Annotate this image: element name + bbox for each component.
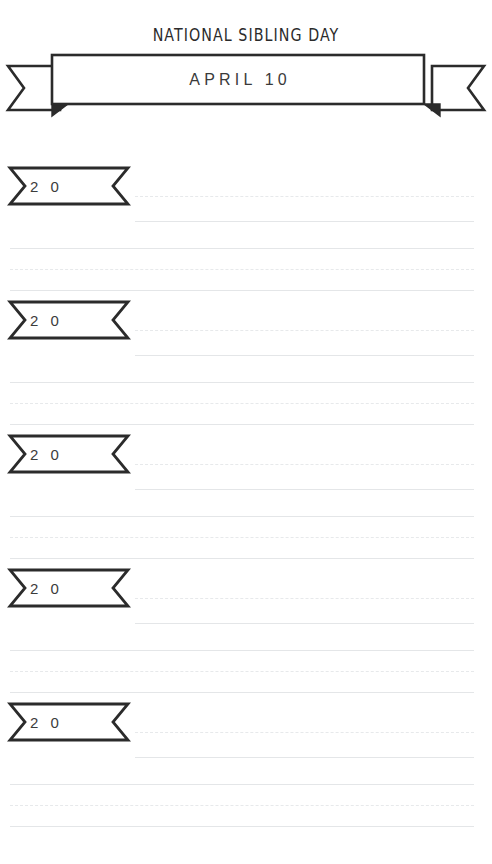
writing-line[interactable] xyxy=(135,196,474,197)
writing-line[interactable] xyxy=(135,464,474,465)
writing-line[interactable] xyxy=(135,330,474,331)
writing-line[interactable] xyxy=(135,489,474,490)
writing-line[interactable] xyxy=(135,598,474,599)
writing-line[interactable] xyxy=(10,248,474,249)
year-input[interactable]: 2 0 xyxy=(8,433,130,475)
entry-block: 2 0 xyxy=(0,165,492,299)
entry-block: 2 0 xyxy=(0,567,492,701)
journal-page: NATIONAL SIBLING DAY APRIL 10 2 0 xyxy=(0,0,492,864)
entry-block: 2 0 xyxy=(0,299,492,433)
page-date: APRIL 10 xyxy=(52,55,424,104)
year-input[interactable]: 2 0 xyxy=(8,299,130,341)
page-title: NATIONAL SIBLING DAY xyxy=(12,24,479,45)
year-input[interactable]: 2 0 xyxy=(8,165,130,207)
writing-line[interactable] xyxy=(10,269,474,270)
writing-line[interactable] xyxy=(10,558,474,559)
writing-line[interactable] xyxy=(135,757,474,758)
writing-line[interactable] xyxy=(10,784,474,785)
writing-line[interactable] xyxy=(135,355,474,356)
writing-line[interactable] xyxy=(10,671,474,672)
writing-line[interactable] xyxy=(10,826,474,827)
writing-line[interactable] xyxy=(10,290,474,291)
writing-line[interactable] xyxy=(10,424,474,425)
writing-line[interactable] xyxy=(10,650,474,651)
writing-line[interactable] xyxy=(10,403,474,404)
writing-line[interactable] xyxy=(135,623,474,624)
writing-line[interactable] xyxy=(10,516,474,517)
entry-block: 2 0 xyxy=(0,701,492,835)
writing-line[interactable] xyxy=(135,221,474,222)
page-header: NATIONAL SIBLING DAY APRIL 10 xyxy=(0,0,492,140)
writing-line[interactable] xyxy=(10,692,474,693)
writing-line[interactable] xyxy=(10,382,474,383)
year-input[interactable]: 2 0 xyxy=(8,567,130,609)
writing-line[interactable] xyxy=(135,732,474,733)
writing-line[interactable] xyxy=(10,537,474,538)
year-input[interactable]: 2 0 xyxy=(8,701,130,743)
entry-block: 2 0 xyxy=(0,433,492,567)
writing-line[interactable] xyxy=(10,805,474,806)
